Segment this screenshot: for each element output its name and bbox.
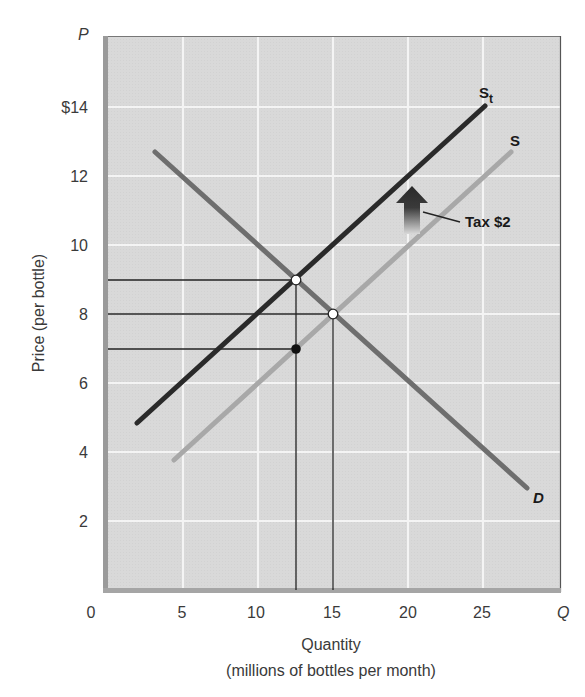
svg-text:$14: $14	[61, 99, 88, 116]
x-axis-title: Quantity	[301, 636, 361, 653]
x-tick-labels: 0 5 10 15 20 25	[87, 604, 491, 621]
tax-label: Tax $2	[465, 213, 511, 230]
label-s: S	[510, 132, 520, 149]
svg-text:6: 6	[79, 375, 88, 392]
svg-text:5: 5	[178, 604, 187, 621]
point-new-equilibrium	[291, 275, 301, 285]
x-axis-symbol: Q	[557, 604, 569, 621]
svg-text:12: 12	[70, 168, 88, 185]
y-axis-title: Price (per bottle)	[30, 254, 47, 372]
svg-text:0: 0	[87, 604, 96, 621]
point-original-equilibrium	[328, 309, 338, 319]
x-axis-subtitle: (millions of bottles per month)	[226, 662, 436, 679]
supply-demand-tax-chart: Tax $2 St S D P Q $14 12 10 8 6 4 2 0 5 …	[0, 0, 585, 697]
svg-text:4: 4	[79, 444, 88, 461]
point-seller-price	[291, 344, 301, 354]
y-tick-labels: $14 12 10 8 6 4 2	[61, 99, 88, 530]
svg-text:10: 10	[247, 604, 265, 621]
label-d: D	[533, 489, 544, 506]
svg-text:25: 25	[473, 604, 491, 621]
svg-text:20: 20	[399, 604, 417, 621]
svg-text:8: 8	[79, 306, 88, 323]
svg-text:2: 2	[79, 513, 88, 530]
svg-text:10: 10	[70, 237, 88, 254]
y-axis-symbol: P	[78, 26, 89, 43]
svg-text:15: 15	[323, 604, 341, 621]
